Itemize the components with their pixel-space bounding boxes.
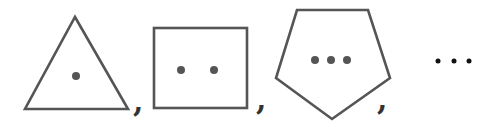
square-dot-2 — [210, 66, 218, 74]
ellipsis-continuation — [436, 59, 472, 64]
pentagon-shape — [276, 10, 390, 119]
shape-sequence-diagram: , , , — [0, 0, 489, 127]
separator-comma-2: , — [256, 82, 266, 117]
triangle-dot — [72, 72, 80, 80]
ellipsis-dot-2 — [452, 59, 457, 64]
pentagon-dot-2 — [327, 56, 335, 64]
separator-comma-3: , — [377, 82, 387, 117]
pentagon-figure — [276, 10, 390, 119]
square-shape — [154, 28, 247, 108]
ellipsis-dot-3 — [467, 59, 472, 64]
triangle-shape — [25, 17, 128, 109]
separator-comma-1: , — [133, 84, 143, 119]
pentagon-dot-3 — [343, 56, 351, 64]
ellipsis-dot-1 — [436, 59, 441, 64]
diagram-canvas: , , , — [0, 0, 489, 127]
square-figure — [154, 28, 247, 108]
triangle-figure — [25, 17, 128, 109]
pentagon-dot-1 — [311, 56, 319, 64]
square-dot-1 — [177, 66, 185, 74]
